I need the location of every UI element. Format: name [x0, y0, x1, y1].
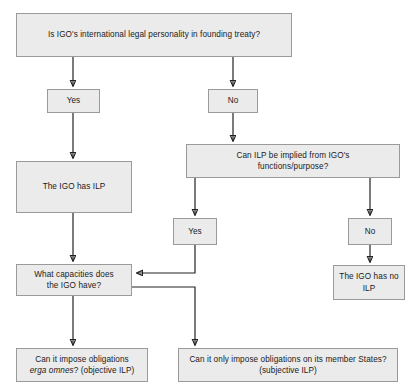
- node-label-yes-treaty: Yes: [52, 95, 95, 107]
- node-outcome-objective-ilp: Can it impose obligations erga omnes? (o…: [16, 348, 148, 382]
- node-label-objective-ilp-italic: erga omnes: [30, 366, 74, 375]
- node-label-has-no-ilp-line1: The IGO has no: [339, 272, 398, 281]
- node-branch-no-treaty: No: [208, 89, 258, 113]
- edge-capacities-to-subjective: [132, 287, 195, 345]
- node-question-implied: Can ILP be implied from IGO's functions/…: [186, 144, 400, 178]
- node-label-has-ilp: The IGO has ILP: [21, 181, 127, 193]
- node-label-founding-treaty: Is IGO's international legal personality…: [21, 29, 287, 41]
- flowchart-canvas: Is IGO's international legal personality…: [0, 0, 415, 390]
- node-label-implied-line1: Can ILP be implied from IGO's: [236, 151, 349, 160]
- node-label-no-implied: No: [353, 226, 387, 238]
- node-label-objective-ilp-rest: ? (objective ILP): [74, 366, 135, 375]
- node-label-subjective-ilp-line1: Can it only impose obligations on its me…: [189, 355, 386, 364]
- edge-yes-lower-to-capacities: [137, 245, 195, 273]
- node-label-capacities-line1: What capacities does: [34, 270, 113, 279]
- node-label-implied-line2: functions/purpose?: [258, 162, 329, 171]
- node-outcome-has-ilp: The IGO has ILP: [16, 161, 132, 213]
- node-label-capacities: What capacities does the IGO have?: [21, 269, 127, 292]
- node-question-capacities: What capacities does the IGO have?: [16, 264, 132, 296]
- node-label-has-no-ilp: The IGO has no ILP: [338, 271, 400, 294]
- node-branch-no-implied: No: [348, 218, 392, 245]
- node-outcome-has-no-ilp: The IGO has no ILP: [333, 265, 405, 300]
- node-label-has-no-ilp-line2: ILP: [363, 284, 376, 293]
- node-question-founding-treaty: Is IGO's international legal personality…: [16, 13, 292, 57]
- node-branch-yes-implied: Yes: [173, 218, 217, 245]
- node-branch-yes-treaty: Yes: [47, 89, 100, 113]
- node-label-no-treaty: No: [213, 95, 253, 107]
- node-label-yes-implied: Yes: [178, 226, 212, 238]
- node-label-objective-ilp-line1: Can it impose obligations: [35, 355, 129, 364]
- node-label-subjective-ilp-line2: (subjective ILP): [259, 366, 317, 375]
- node-outcome-subjective-ilp: Can it only impose obligations on its me…: [178, 348, 398, 382]
- node-label-objective-ilp: Can it impose obligations erga omnes? (o…: [21, 354, 143, 377]
- node-label-capacities-line2: the IGO have?: [47, 281, 101, 290]
- node-label-subjective-ilp: Can it only impose obligations on its me…: [183, 354, 393, 377]
- node-label-implied: Can ILP be implied from IGO's functions/…: [191, 150, 395, 173]
